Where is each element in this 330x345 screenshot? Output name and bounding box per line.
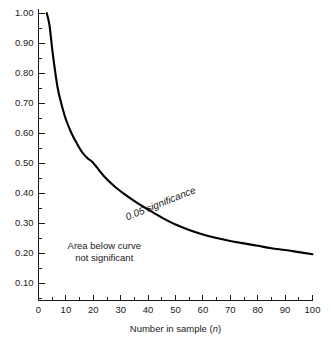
x-tick-label: 30 xyxy=(115,304,126,315)
y-tick-label: 0.10 xyxy=(15,277,34,288)
x-axis-ticks xyxy=(39,295,313,301)
x-axis-title: Number in sample (n) xyxy=(130,323,221,334)
x-tick-label: 40 xyxy=(143,304,154,315)
region-label-line-2: not significant xyxy=(75,252,133,263)
region-label-line-1: Area below curve xyxy=(68,240,141,251)
x-tick-label: 90 xyxy=(280,304,291,315)
y-axis-tick-labels: 1.000.900.800.700.600.500.400.300.200.10 xyxy=(15,7,34,288)
y-axis-ticks xyxy=(39,13,45,298)
y-tick-label: 0.40 xyxy=(15,187,34,198)
x-tick-label: 0 xyxy=(36,304,41,315)
y-tick-label: 0.20 xyxy=(15,247,34,258)
y-tick-label: 0.50 xyxy=(15,157,34,168)
chart-canvas: 1.000.900.800.700.600.500.400.300.200.10… xyxy=(0,0,330,345)
significance-curve xyxy=(47,13,313,254)
x-tick-label: 100 xyxy=(305,304,321,315)
y-tick-label: 0.80 xyxy=(15,67,34,78)
data-series-group xyxy=(47,13,313,254)
x-tick-label: 10 xyxy=(61,304,72,315)
x-tick-label: 20 xyxy=(88,304,99,315)
annotations: 0.05 significance Area below curve not s… xyxy=(68,184,198,262)
y-tick-label: 0.30 xyxy=(15,217,34,228)
y-tick-label: 0.70 xyxy=(15,97,34,108)
y-tick-label: 0.90 xyxy=(15,37,34,48)
x-axis-tick-labels: 0102030405060708090100 xyxy=(36,304,321,315)
y-tick-label: 1.00 xyxy=(15,7,34,18)
x-axis-title-group: Number in sample (n) xyxy=(130,323,221,334)
x-tick-label: 70 xyxy=(225,304,236,315)
chart-figure: 1.000.900.800.700.600.500.400.300.200.10… xyxy=(0,0,330,345)
y-tick-label: 0.60 xyxy=(15,127,34,138)
x-tick-label: 60 xyxy=(198,304,209,315)
x-tick-label: 80 xyxy=(252,304,263,315)
x-tick-label: 50 xyxy=(170,304,181,315)
